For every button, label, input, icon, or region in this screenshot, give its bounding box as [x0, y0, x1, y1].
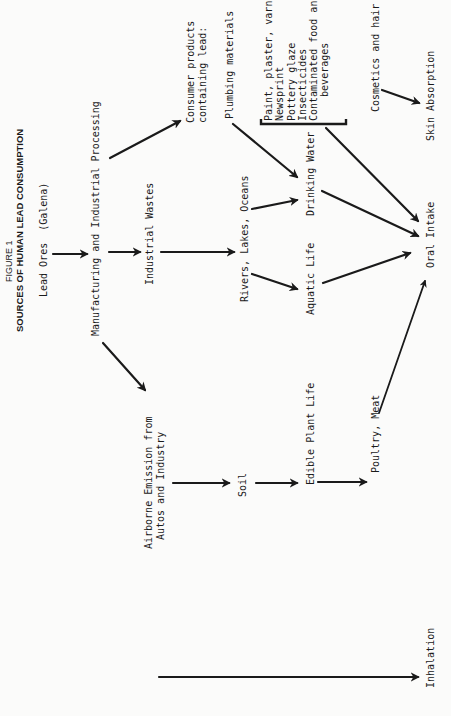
node-manufacturing: Manufacturing and Industrial Processing [90, 101, 101, 336]
figure-canvas: FIGURE 1 SOURCES OF HUMAN LEAD CONSUMPTI… [0, 0, 451, 716]
node-rivers-lakes-oceans: Rivers, Lakes, Oceans [239, 176, 250, 302]
node-skin-absorption: Skin Absorption [425, 51, 436, 141]
arrow-cosmetics-to-skin [382, 90, 419, 103]
arrow-aquatic-to-oral [323, 253, 410, 283]
node-airborne-emission-line2: Autos and Industry [155, 432, 166, 540]
consumer-list-item: Pottery glaze [286, 43, 297, 121]
arrow-drinking-to-oral [322, 191, 418, 236]
node-plumbing-materials: Plumbing materials [224, 11, 235, 119]
arrow-plumbing-to-drinking [233, 124, 297, 177]
arrow-rivers-to-aquatic [252, 274, 297, 289]
arrow-manufacturing-to-airborne [103, 343, 145, 390]
node-consumer-products-line2: containing lead: [197, 27, 208, 123]
consumer-list-item: beverages [319, 43, 330, 121]
consumer-list-item: Insecticides [297, 49, 308, 121]
consumer-list-item: Contaminated food and [308, 0, 319, 121]
node-inhalation: Inhalation [425, 628, 436, 688]
node-oral-intake: Oral Intake [425, 202, 436, 268]
node-airborne-emission-line1: Airborne Emission from [143, 417, 154, 549]
node-poultry-meat: Poultry, Meat [370, 395, 381, 473]
node-soil: Soil [237, 473, 248, 497]
node-drinking-water: Drinking Water [305, 132, 316, 216]
figure-title: SOURCES OF HUMAN LEAD CONSUMPTION [15, 129, 25, 332]
arrow-manufacturing-to-consumer [110, 121, 180, 158]
arrow-poultry-to-oral [379, 281, 425, 413]
node-industrial-wastes: Industrial Wastes [144, 183, 155, 285]
node-cosmetics: Cosmetics and hair dyes [370, 0, 381, 112]
arrow-rivers-to-drinking [252, 200, 297, 209]
node-edible-plant-life: Edible Plant Life [305, 383, 316, 485]
node-consumer-products-line1: Consumer products [185, 21, 196, 123]
figure-label: FIGURE 1 [4, 240, 14, 282]
arrow-consumer-list-to-oral [326, 128, 418, 221]
consumer-list-item: Newsprint [274, 67, 285, 121]
node-lead-ores: Lead Ores (Galena) [38, 183, 49, 297]
consumer-list-item: Paint, plaster, varnish [263, 0, 274, 121]
node-aquatic-life: Aquatic Life [305, 243, 316, 315]
